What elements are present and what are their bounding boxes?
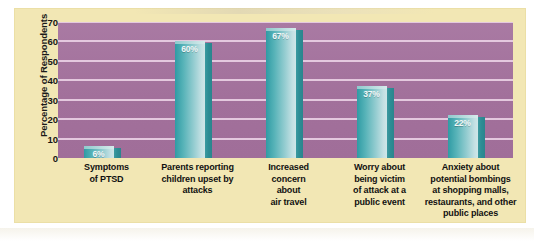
bar-0: 6% — [84, 146, 114, 158]
bar-value-label-3: 37% — [357, 89, 387, 99]
bar-2: 67% — [266, 28, 296, 158]
y-axis-tick-40: 40 — [36, 75, 58, 86]
gridline-70 — [58, 22, 513, 23]
category-label-3: Worry aboutbeing victimof attack at apub… — [335, 162, 425, 208]
category-label-line: Anxiety about — [413, 162, 529, 174]
category-label-4: Anxiety aboutpotential bombingsat shoppi… — [413, 162, 529, 220]
category-label-line: air travel — [252, 197, 326, 209]
bar-4: 22% — [448, 115, 478, 158]
category-label-line: Parents reporting — [146, 162, 250, 174]
chart-figure: Percentage of Respondents 70605040302010… — [0, 0, 534, 241]
bar-side-3 — [387, 88, 394, 158]
plot-area: 6%60%67%37%22% — [58, 22, 513, 158]
chart-panel: Percentage of Respondents 70605040302010… — [14, 8, 526, 223]
y-axis-tick-10: 10 — [36, 133, 58, 144]
bar-value-label-1: 60% — [175, 44, 205, 54]
bar-3: 37% — [357, 86, 387, 158]
bar-value-label-0: 6% — [84, 149, 114, 158]
category-label-line: Symptoms — [64, 162, 150, 174]
bar-value-label-4: 22% — [448, 118, 478, 128]
category-label-2: Increasedconcernaboutair travel — [252, 162, 326, 208]
scan-smudge-bottom — [0, 228, 534, 241]
category-label-line: public event — [335, 197, 425, 209]
x-axis-category-labels: Symptomsof PTSDParents reportingchildren… — [58, 162, 526, 222]
bar-side-1 — [205, 43, 212, 158]
y-axis-tick-0: 0 — [36, 153, 58, 164]
bar-face-1 — [175, 41, 205, 158]
y-axis-tick-20: 20 — [36, 114, 58, 125]
category-label-0: Symptomsof PTSD — [64, 162, 150, 185]
category-label-line: attacks — [146, 185, 250, 197]
bar-1: 60% — [175, 41, 205, 158]
category-label-line: at shopping malls, — [413, 185, 529, 197]
category-label-line: public places — [413, 208, 529, 220]
scan-smudge-top — [134, 8, 434, 14]
category-label-line: restaurants, and other — [413, 197, 529, 209]
y-axis-tick-70: 70 — [36, 17, 58, 28]
category-label-line: of PTSD — [64, 174, 150, 186]
category-label-line: being victim — [335, 174, 425, 186]
category-label-line: potential bombings — [413, 174, 529, 186]
category-label-line: concern — [252, 174, 326, 186]
category-label-line: Increased — [252, 162, 326, 174]
category-label-line: Worry about — [335, 162, 425, 174]
category-label-line: of attack at a — [335, 185, 425, 197]
y-axis-tick-group: 706050403020100 — [32, 22, 58, 158]
bar-side-0 — [114, 148, 121, 158]
category-label-line: about — [252, 185, 326, 197]
y-axis-tick-60: 60 — [36, 36, 58, 47]
y-axis-tick-30: 30 — [36, 94, 58, 105]
bar-face-2 — [266, 28, 296, 158]
bar-side-4 — [478, 117, 485, 158]
category-label-1: Parents reportingchildren upset byattack… — [146, 162, 250, 197]
category-label-line: children upset by — [146, 174, 250, 186]
bar-side-2 — [296, 30, 303, 158]
bar-value-label-2: 67% — [266, 31, 296, 41]
y-axis-tick-50: 50 — [36, 55, 58, 66]
